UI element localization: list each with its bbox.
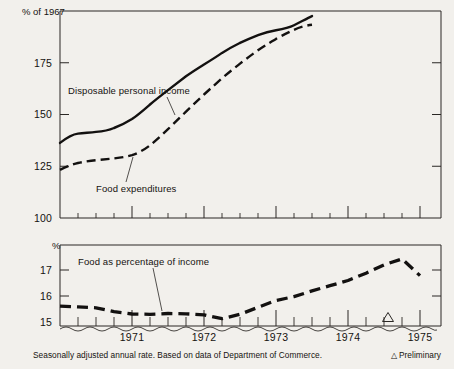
bottom-panel-ytick-17: 17 (40, 264, 52, 276)
figure-background (0, 0, 454, 369)
xtick-label-1971: 1971 (120, 331, 145, 343)
annotation-disposable-personal-income: Disposable personal income (68, 85, 190, 96)
top-panel-y-axis-label: % of 1967 (22, 6, 65, 17)
footnote-preliminary: △ Preliminary (391, 350, 442, 360)
bottom-panel-ytick-15: 15 (40, 316, 52, 328)
xtick-label-1972: 1972 (192, 331, 217, 343)
top-panel-ytick-100: 100 (34, 212, 52, 224)
annotation-food-expenditures: Food expenditures (96, 183, 177, 194)
bottom-panel-ytick-16: 16 (40, 290, 52, 302)
xtick-label-1975: 1975 (408, 331, 433, 343)
xtick-label-1974: 1974 (336, 331, 361, 343)
chart-figure: % of 1967 175 150 125 100 (0, 0, 454, 369)
top-panel-ytick-125: 125 (34, 160, 52, 172)
top-panel-ytick-175: 175 (34, 57, 52, 69)
annotation-food-as-percentage-of-income: Food as percentage of income (78, 256, 209, 267)
top-panel-ytick-150: 150 (34, 108, 52, 120)
footnote-source: Seasonally adjusted annual rate. Based o… (33, 350, 322, 360)
chart-svg: % of 1967 175 150 125 100 (0, 0, 454, 369)
xtick-label-1973: 1973 (264, 331, 289, 343)
